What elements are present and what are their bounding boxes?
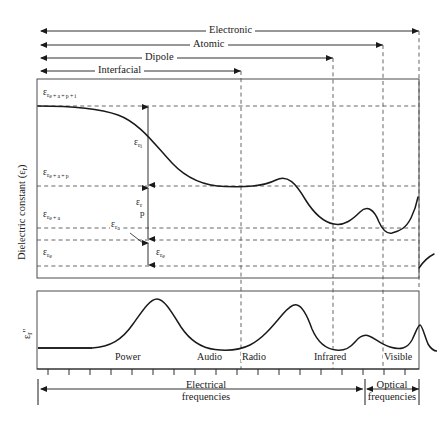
interfacial-contribution-label: εri: [133, 138, 143, 150]
band-visible-label: Visible: [383, 352, 413, 362]
electronic-range-label: Electronic: [206, 25, 255, 36]
atomic-contribution-label: εra: [110, 220, 121, 232]
optical-line1: Optical: [377, 379, 408, 390]
eps-sub-modes: e: [49, 253, 52, 259]
eps-sub-modes: e + a: [49, 215, 60, 221]
atomic-contribution-leader: [130, 233, 143, 243]
upper-panel-y-axis-title: Dielectric constant (εr): [17, 164, 29, 260]
lower-panel-y-axis-label: εr″: [22, 327, 34, 340]
dielectric-constant-curve: [38, 106, 434, 268]
eps-sub-mode: a: [117, 225, 120, 231]
y-axis-title-sub: r: [20, 168, 29, 171]
band-infrared-label: Infrared: [313, 352, 347, 362]
eps-sub-mode: e: [162, 253, 165, 259]
eps-sub-mode: p: [134, 209, 145, 218]
frequency-tick-axis: [37, 369, 419, 375]
optical-line2: frequencies: [368, 391, 416, 402]
level-e-a-label: εre + a: [42, 210, 61, 222]
electrical-line2: frequencies: [182, 391, 230, 402]
y-axis-title-close: ): [16, 164, 27, 168]
level-e-a-p-label: εre + a + p: [42, 168, 70, 180]
figure-vector-layer: [0, 0, 440, 427]
double-prime-glyph: ″: [21, 328, 32, 332]
band-audio-label: Audio: [196, 352, 223, 362]
eps-sub-r: r: [26, 332, 34, 334]
dipole-range-label: Dipole: [142, 52, 177, 63]
eps-glyph: ε: [21, 335, 32, 339]
electronic-contribution-label: εre: [155, 248, 166, 260]
loss-path: [38, 299, 437, 351]
dielectric-loss-curve: [38, 299, 437, 351]
real-permittivity-path: [38, 106, 418, 233]
optical-frequencies-label: Optical frequencies: [338, 379, 440, 403]
band-radio-label: Radio: [241, 352, 267, 362]
level-e-label: εre: [42, 248, 53, 260]
boundary-dashed-lines: [241, 31, 419, 369]
eps-sub-modes: e + a + p: [49, 173, 68, 179]
eps-sub-mode: i: [140, 143, 142, 149]
dipole-contribution-label: εr p: [133, 198, 146, 218]
atomic-range-label: Atomic: [190, 39, 228, 50]
eps-sub-r: r: [140, 201, 142, 208]
lower-panel-frame: [37, 291, 419, 369]
band-power-label: Power: [114, 352, 142, 362]
level-e-a-p-i-label: εre + a + p + i: [42, 88, 77, 100]
real-permittivity-post-resonance-path: [419, 254, 434, 268]
y-axis-title-main: Dielectric constant (ε: [16, 170, 27, 260]
dielectric-spectrum-figure: Electronic Atomic Dipole Interfacial Die…: [0, 0, 440, 427]
electrical-line1: Electrical: [186, 379, 226, 390]
interfacial-range-label: Interfacial: [95, 65, 144, 76]
electrical-frequencies-label: Electrical frequencies: [151, 379, 261, 403]
eps-sub-modes: e + a + p + i: [49, 93, 76, 99]
